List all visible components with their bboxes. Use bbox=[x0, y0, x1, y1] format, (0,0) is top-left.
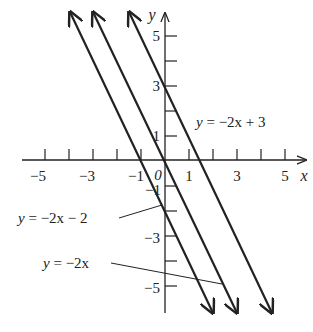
y-ticks bbox=[165, 36, 177, 286]
y-tick-label: −3 bbox=[144, 230, 160, 246]
x-tick-label: 3 bbox=[233, 168, 241, 184]
x-axis-label: x bbox=[299, 167, 307, 184]
leader-line-minus2 bbox=[119, 205, 162, 218]
x-tick-label: −1 bbox=[128, 168, 144, 184]
equation-label-zero: y = −2x bbox=[41, 255, 90, 271]
line-y-eq-neg2x-plus3 bbox=[129, 12, 272, 313]
y-tick-label: 3 bbox=[153, 78, 161, 94]
chart-plot-area: −5 −3 −1 0 1 3 5 x y 5 3 1 −1 −3 −5 y = … bbox=[0, 0, 313, 332]
equation-label-minus2: y = −2x − 2 bbox=[16, 210, 88, 226]
x-tick-label: −3 bbox=[79, 168, 95, 184]
y-tick-label: 5 bbox=[153, 28, 161, 44]
origin-label: 0 bbox=[154, 167, 162, 183]
equation-label-plus3: y = −2x + 3 bbox=[194, 114, 266, 130]
line-y-eq-neg2x-minus2 bbox=[70, 12, 213, 313]
y-tick-label: −5 bbox=[144, 280, 160, 296]
y-tick-label: 1 bbox=[153, 128, 161, 144]
leader-line-zero bbox=[111, 263, 222, 284]
x-tick-label: 5 bbox=[281, 168, 289, 184]
x-tick-label: 1 bbox=[185, 168, 193, 184]
y-axis-label: y bbox=[146, 6, 156, 24]
x-tick-label: −5 bbox=[30, 168, 46, 184]
